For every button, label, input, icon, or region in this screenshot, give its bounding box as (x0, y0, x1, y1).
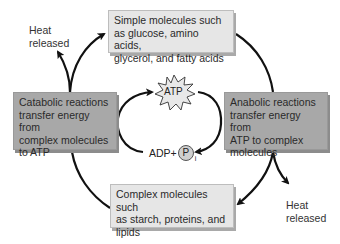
arrow-adp-to-atp (118, 92, 152, 152)
simple-molecules-line2: as glucose, amino acids, (114, 27, 228, 52)
atp-label: ATP (164, 86, 183, 97)
catabolic-line1: Catabolic reactions (19, 96, 111, 109)
arrow-anabolic-to-complex (238, 152, 273, 204)
arrow-heat-top-left (58, 52, 70, 92)
heat-released-top-left: Heat released (29, 24, 69, 49)
adp-plus-phosphate: ADP+ P i (149, 145, 196, 161)
simple-molecules-box: Simple molecules such as glucose, amino … (108, 10, 234, 53)
anabolic-reactions-box: Anabolic reactions transfer energy from … (224, 92, 328, 150)
complex-molecules-line3: lipids (116, 226, 228, 239)
complex-molecules-line2: as starch, proteins, and (116, 213, 228, 226)
anabolic-line1: Anabolic reactions (230, 96, 322, 109)
catabolic-line2: transfer energy from (19, 109, 111, 134)
complex-molecules-line1: Complex molecules such (116, 188, 228, 213)
phosphate-circle-icon: P (178, 145, 194, 161)
arrow-atp-to-adp (196, 92, 221, 152)
simple-molecules-line1: Simple molecules such (114, 14, 228, 27)
arrow-complex-to-catabolic (72, 152, 110, 208)
heat-label-line1: Heat (286, 199, 326, 212)
heat-released-bottom-right: Heat released (286, 199, 326, 224)
heat-label-line2: released (29, 37, 69, 50)
arrow-catabolic-to-simple (70, 34, 104, 92)
adp-label: ADP+ (149, 147, 177, 159)
catabolic-line3: complex molecules (19, 134, 111, 147)
heat-label-line1: Heat (29, 24, 69, 37)
phosphate-subscript: i (195, 155, 197, 162)
simple-molecules-line3: glycerol, and fatty acids (114, 52, 228, 65)
heat-label-line2: released (286, 212, 326, 225)
anabolic-line4: molecules (230, 146, 322, 159)
catabolic-reactions-box: Catabolic reactions transfer energy from… (13, 92, 117, 150)
anabolic-line3: ATP to complex (230, 134, 322, 147)
arrow-simple-to-anabolic (236, 34, 273, 92)
complex-molecules-box: Complex molecules such as starch, protei… (110, 184, 234, 228)
catabolic-line4: to ATP (19, 146, 111, 159)
anabolic-line2: transfer energy from (230, 109, 322, 134)
